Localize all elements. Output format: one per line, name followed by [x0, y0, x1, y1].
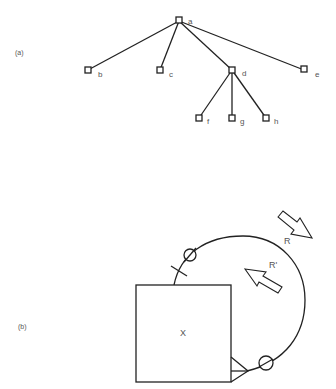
node-c: [157, 67, 163, 73]
loop-diagram: [136, 236, 305, 382]
node-f: [196, 115, 202, 121]
node-a: [176, 17, 182, 23]
arrow-r-prime-icon: [245, 269, 282, 293]
label-h: h: [274, 117, 278, 126]
label-a: a: [188, 17, 193, 26]
label-e: e: [315, 70, 320, 79]
arrow-r-label: R: [284, 236, 291, 246]
label-c: c: [169, 70, 173, 79]
tree-nodes: [85, 17, 307, 121]
edge-d-h: [232, 70, 266, 118]
edge-d-f: [199, 70, 232, 118]
node-e: [301, 66, 307, 72]
panel-b-label: (b): [18, 323, 27, 331]
node-h: [263, 115, 269, 121]
edge-a-e: [179, 21, 304, 70]
arrow-r-prime-label: R': [269, 260, 277, 270]
panel-a-label: (a): [15, 49, 24, 57]
arrow-r-icon: [278, 211, 312, 238]
triangle-connector: [231, 357, 248, 382]
diagram-canvas: a b c d e f g h (a) (b) X R R': [0, 0, 336, 389]
label-f: f: [207, 117, 210, 126]
edge-a-b: [88, 21, 179, 70]
label-g: g: [240, 117, 244, 126]
label-b: b: [98, 70, 103, 79]
node-d: [229, 67, 235, 73]
label-d: d: [242, 69, 246, 78]
edge-a-c: [160, 21, 179, 70]
node-b: [85, 67, 91, 73]
tick-mark: [171, 266, 187, 276]
tree-diagram: [88, 21, 304, 118]
edge-a-d: [179, 21, 232, 70]
box-x-label: X: [180, 328, 186, 338]
node-g: [229, 115, 235, 121]
